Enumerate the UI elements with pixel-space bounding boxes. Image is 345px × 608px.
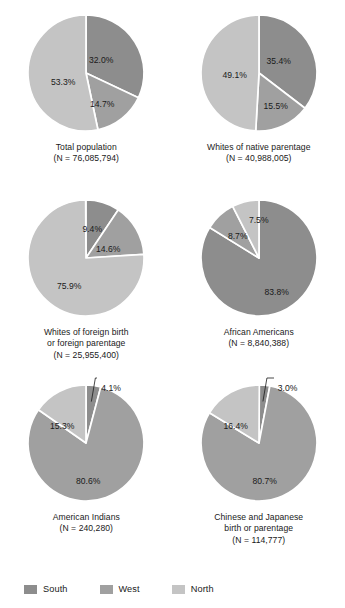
legend-label-south: South bbox=[43, 584, 68, 594]
legend-label-north: North bbox=[191, 584, 214, 594]
callout-label-south-4: 4.1% bbox=[101, 384, 121, 393]
pie-chart-african-americans: 83.8% 8.7% 7.5% bbox=[198, 197, 320, 319]
pie-chart-total-population: 32.0% 14.7% 53.3% bbox=[25, 12, 147, 134]
legend-swatch-west-icon bbox=[100, 585, 113, 594]
pie-chart-chinese-japanese-birth-or-parentage: 80.7% 16.4% 3.0% bbox=[198, 382, 320, 504]
pie-svg-1 bbox=[198, 12, 320, 134]
pie-svg-0 bbox=[25, 12, 147, 134]
legend-item-south: South bbox=[24, 584, 68, 594]
pie-chart-grid: 32.0% 14.7% 53.3% Total population (N = … bbox=[0, 0, 345, 565]
pie-svg-3 bbox=[198, 197, 320, 319]
pie-cell-1: 35.4% 15.5% 49.1% Whites of native paren… bbox=[173, 0, 345, 185]
pie-chart-whites-native-parentage: 35.4% 15.5% 49.1% bbox=[198, 12, 320, 134]
callout-label-south-5: 3.0% bbox=[278, 384, 298, 393]
legend-item-north: North bbox=[172, 584, 214, 594]
pie-caption-5: Chinese and Japanese birth or parentage … bbox=[214, 512, 303, 546]
pie-cell-3: 83.8% 8.7% 7.5% African Americans (N = 8… bbox=[173, 185, 345, 370]
pie-slice-north bbox=[201, 15, 259, 131]
pie-svg-4 bbox=[25, 382, 147, 504]
pie-cell-4: 80.6% 15.3% 4.1% American Indians (N = 2… bbox=[0, 370, 173, 565]
pie-svg-5 bbox=[198, 382, 320, 504]
legend-item-west: West bbox=[100, 584, 140, 594]
pie-caption-0: Total population (N = 76,085,794) bbox=[53, 142, 119, 165]
pie-caption-4: American Indians (N = 240,280) bbox=[53, 512, 120, 535]
legend-label-west: West bbox=[119, 584, 140, 594]
chart-legend: South West North bbox=[24, 584, 246, 594]
pie-cell-2: 9.4% 14.6% 75.9% Whites of foreign birth… bbox=[0, 185, 173, 370]
pie-cell-5: 80.7% 16.4% 3.0% Chinese and Japanese bi… bbox=[173, 370, 345, 565]
legend-swatch-south-icon bbox=[24, 585, 37, 594]
pie-caption-2: Whites of foreign birth or foreign paren… bbox=[44, 327, 129, 361]
pie-chart-american-indians: 80.6% 15.3% 4.1% bbox=[25, 382, 147, 504]
pie-caption-1: Whites of native parentage (N = 40,988,0… bbox=[207, 142, 311, 165]
pie-cell-0: 32.0% 14.7% 53.3% Total population (N = … bbox=[0, 0, 173, 185]
pie-chart-whites-foreign-birth-or-parentage: 9.4% 14.6% 75.9% bbox=[25, 197, 147, 319]
pie-caption-3: African Americans (N = 8,840,388) bbox=[224, 327, 294, 350]
pie-svg-2 bbox=[25, 197, 147, 319]
legend-swatch-north-icon bbox=[172, 585, 185, 594]
